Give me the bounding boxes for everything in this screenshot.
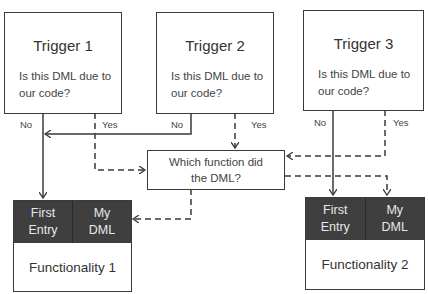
trigger-3-box: Trigger 3 Is this DML due to our code? <box>303 10 424 111</box>
trigger-2-yes-label: Yes <box>251 119 267 130</box>
functionality-2-box: First Entry My DML Functionality 2 <box>305 197 425 290</box>
trigger-1-yes-label: Yes <box>102 119 118 130</box>
trigger-1-title: Trigger 1 <box>5 37 121 54</box>
functionality-2-header: First Entry My DML <box>306 198 424 240</box>
trigger-1-box: Trigger 1 Is this DML due to our code? <box>4 12 122 114</box>
trigger-2-question: Is this DML due to our code? <box>171 68 265 102</box>
trigger-2-no-label: No <box>171 119 183 130</box>
trigger-3-title: Trigger 3 <box>304 35 423 52</box>
functionality-1-name: Functionality 1 <box>14 243 131 291</box>
functionality-1-header: First Entry My DML <box>14 201 131 243</box>
which-function-text: Which function did the DML? <box>161 154 271 186</box>
first-entry-cell: First Entry <box>14 201 72 243</box>
my-dml-cell: My DML <box>365 198 425 240</box>
trigger-2-box: Trigger 2 Is this DML due to our code? <box>156 12 274 114</box>
which-function-box: Which function did the DML? <box>147 150 285 190</box>
trigger-3-question: Is this DML due to our code? <box>318 66 415 100</box>
trigger-3-no-label: No <box>314 117 326 128</box>
trigger-2-title: Trigger 2 <box>157 37 273 54</box>
trigger-1-question: Is this DML due to our code? <box>19 68 113 102</box>
functionality-2-name: Functionality 2 <box>306 240 424 289</box>
functionality-1-box: First Entry My DML Functionality 1 <box>13 200 132 292</box>
my-dml-cell: My DML <box>72 201 131 243</box>
trigger-1-no-label: No <box>20 119 32 130</box>
first-entry-cell: First Entry <box>306 198 365 240</box>
trigger-3-yes-label: Yes <box>393 117 409 128</box>
